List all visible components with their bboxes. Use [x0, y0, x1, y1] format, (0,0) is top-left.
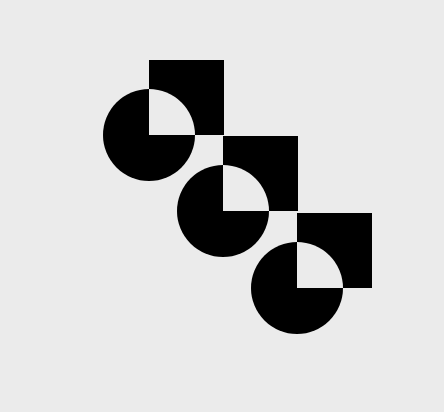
- motif-3: [251, 213, 372, 334]
- motif-2: [177, 136, 298, 257]
- motif-1: [103, 60, 224, 181]
- artwork: [0, 0, 444, 412]
